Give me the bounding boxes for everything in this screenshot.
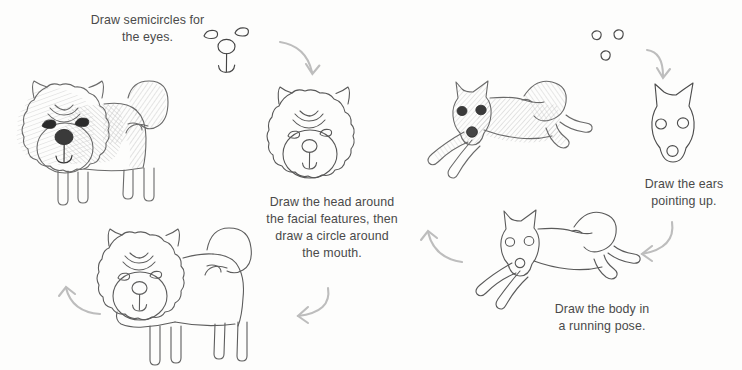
arrow-step7-to-step8 bbox=[416, 220, 466, 270]
arrow-step2-to-step3 bbox=[286, 286, 332, 328]
arrow-step1-to-step2 bbox=[278, 38, 326, 82]
drawing-step-8-running-dog-finished bbox=[424, 70, 589, 188]
drawing-step-4-fluffy-dog-finished bbox=[12, 74, 202, 202]
drawing-step-3-fluffy-body-outline bbox=[95, 212, 295, 364]
drawing-step-6-pointed-head-ears bbox=[643, 80, 707, 172]
drawing-step-2-fluffy-head bbox=[262, 74, 367, 186]
arrow-step6-to-step7 bbox=[626, 220, 676, 272]
drawing-step-1-facial-features bbox=[198, 22, 260, 84]
tutorial-page: Draw semicircles for the eyes. Draw the … bbox=[0, 0, 742, 370]
drawing-step-5-three-circles bbox=[588, 26, 644, 66]
caption-draw-ears-pointing-up: Draw the ears pointing up. bbox=[632, 176, 736, 210]
drawing-step-7-running-body-outline bbox=[468, 203, 643, 319]
arrow-step3-to-step4 bbox=[56, 280, 104, 320]
arrow-step5-to-step6 bbox=[645, 48, 685, 84]
